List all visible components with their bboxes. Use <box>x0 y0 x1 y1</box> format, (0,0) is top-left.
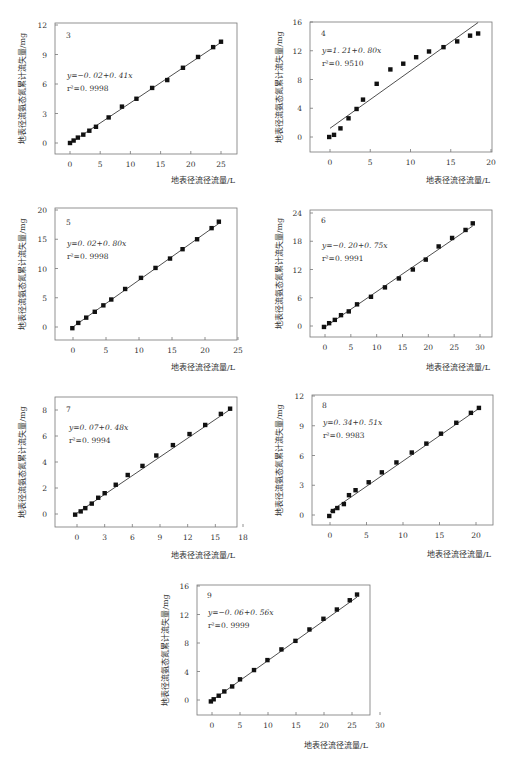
x-tick-label: 10 <box>406 158 416 167</box>
y-tick-label: 0 <box>297 322 302 331</box>
y-tick-label: 4 <box>297 104 302 113</box>
r-squared: r²=0. 9999 <box>208 621 250 630</box>
x-tick-label: 0 <box>328 531 333 540</box>
data-point <box>380 470 384 474</box>
x-axis-label: 地表径流径流量/L <box>171 362 236 372</box>
data-point <box>238 677 242 681</box>
y-tick-label: 4 <box>42 458 47 467</box>
y-tick-label: 0 <box>42 510 47 519</box>
data-point <box>454 421 458 425</box>
data-point <box>335 506 339 510</box>
x-axis-label: 地表径流径流量/L <box>427 549 492 559</box>
panel-number: 4 <box>321 29 326 38</box>
data-point <box>76 321 80 325</box>
x-tick-label: 5 <box>348 343 353 352</box>
r-squared: r²=0. 9998 <box>67 84 109 93</box>
x-tick-label: 25 <box>233 346 243 355</box>
y-tick-label: 6 <box>42 432 47 441</box>
data-point <box>476 31 480 35</box>
panel-number: 7 <box>66 405 71 414</box>
y-axis-label: 地表径流氨态氮累计流失量/mg <box>17 218 27 329</box>
data-point <box>217 220 221 224</box>
data-point <box>165 78 169 82</box>
y-tick-label: 0 <box>297 133 302 142</box>
data-point <box>355 592 359 596</box>
data-point <box>219 40 223 44</box>
data-point <box>455 39 459 43</box>
data-point <box>450 236 454 240</box>
data-point <box>211 45 215 49</box>
data-point <box>388 67 392 71</box>
data-point <box>394 460 398 464</box>
data-point <box>126 473 130 477</box>
x-tick-label: 3 <box>102 533 107 542</box>
chart-panel-6: 061218240510152025306y=−0. 20+0. 75xr²=0… <box>274 209 492 372</box>
panel-number: 6 <box>321 216 326 225</box>
y-tick-label: 12 <box>294 392 304 401</box>
data-point <box>78 509 82 513</box>
data-point <box>347 493 351 497</box>
y-tick-label: 3 <box>42 110 47 119</box>
x-tick-label: 0 <box>323 343 328 352</box>
data-point <box>81 132 85 136</box>
data-point <box>230 684 234 688</box>
data-point <box>342 502 346 506</box>
x-tick-label: 15 <box>398 343 408 352</box>
panel-number: 9 <box>207 591 212 600</box>
x-tick-label: 15 <box>435 531 445 540</box>
chart-figure: 03691205101520253y=−0. 02+0. 41xr²=0. 99… <box>0 0 513 767</box>
r-squared: r²=0. 9998 <box>67 252 109 261</box>
y-tick-label: 24 <box>292 209 302 218</box>
x-tick-label: 9 <box>158 533 163 542</box>
data-point <box>139 276 143 280</box>
data-point <box>71 138 75 142</box>
data-point <box>219 412 223 416</box>
regression-equation: y=1. 21+0. 80x <box>321 46 382 55</box>
x-axis-label: 地表径流径流量/L <box>426 175 491 185</box>
x-axis-label: 地表径流径流量/L <box>304 740 369 750</box>
x-tick-label: 20 <box>471 531 481 540</box>
y-tick-label: 0 <box>42 139 47 148</box>
data-point <box>471 221 475 225</box>
plot-frame <box>55 397 237 527</box>
data-point <box>436 244 440 248</box>
data-point <box>195 237 199 241</box>
data-point <box>333 318 337 322</box>
data-point <box>101 303 105 307</box>
y-tick-label: 2 <box>42 484 47 493</box>
x-tick-label: 0 <box>75 533 80 542</box>
data-point <box>228 407 232 411</box>
chart-panel-9: 04812160510152025309y=−0. 06+0. 56xr²=0.… <box>160 582 385 750</box>
data-point <box>94 125 98 129</box>
y-tick-label: 9 <box>42 51 47 60</box>
data-point <box>401 61 405 65</box>
data-point <box>361 97 365 101</box>
data-point <box>441 45 445 49</box>
data-point <box>114 483 118 487</box>
data-point <box>338 126 342 130</box>
x-tick-label: 30 <box>375 721 385 730</box>
data-point <box>87 129 91 133</box>
chart-panel-7: 0246803691215187y=0. 07+0. 48xr²=0. 9994… <box>17 397 248 560</box>
x-tick-label: 5 <box>98 160 103 169</box>
data-point <box>93 310 97 314</box>
y-tick-label: 6 <box>297 294 302 303</box>
x-tick-label: 10 <box>134 346 144 355</box>
x-tick-label: 20 <box>186 160 196 169</box>
regression-equation: y=0. 02+0. 80x <box>66 239 127 248</box>
data-point <box>347 309 351 313</box>
x-tick-label: 5 <box>368 158 373 167</box>
data-point <box>383 285 387 289</box>
x-tick-label: 15 <box>156 160 166 169</box>
x-tick-label: 10 <box>398 531 408 540</box>
data-point <box>96 496 100 500</box>
x-tick-label: 30 <box>475 343 485 352</box>
data-point <box>187 432 191 436</box>
data-point <box>477 406 481 410</box>
data-point <box>327 514 331 518</box>
data-point <box>293 639 297 643</box>
data-point <box>196 55 200 59</box>
y-tick-label: 12 <box>179 611 189 620</box>
x-tick-label: 0 <box>71 346 76 355</box>
chart-panel-8: 036912051015208y=0. 34+0. 51xr²=0. 9983地… <box>274 392 493 559</box>
